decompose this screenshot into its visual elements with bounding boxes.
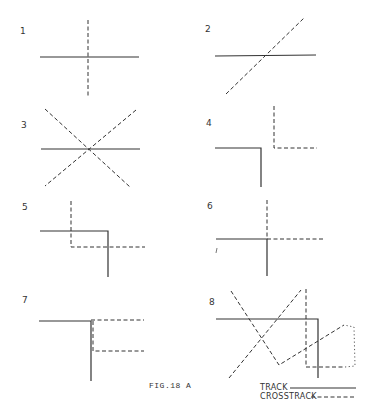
crosstrack-dotted-line: [344, 325, 355, 367]
crosstrack-line: [274, 106, 317, 148]
crosstrack-line: [231, 291, 344, 365]
panel-5: [40, 201, 145, 277]
panel-label-7: 7: [22, 295, 28, 305]
panel-1: [40, 20, 139, 96]
crosstrack-line: [45, 109, 130, 187]
crosstrack-line: [229, 290, 301, 378]
panel-2: [215, 18, 316, 94]
crosstrack-line: [267, 200, 324, 239]
stray-mark: [216, 248, 217, 253]
panel-6: [216, 200, 324, 276]
figure-caption: FIG.18 A: [149, 381, 191, 390]
panel-label-3: 3: [21, 120, 27, 130]
track-line: [216, 319, 318, 378]
crosstrack-line: [45, 110, 136, 186]
legend-label-crosstrack: CROSSTRACK: [260, 392, 317, 401]
figure-canvas: [0, 0, 376, 420]
track-line: [216, 239, 267, 276]
panel-4: [215, 106, 317, 187]
track-line: [39, 321, 91, 381]
panel-label-4: 4: [206, 118, 212, 128]
track-line: [215, 148, 261, 187]
panel-label-1: 1: [20, 26, 26, 36]
legend-label-track: TRACK: [260, 383, 288, 392]
panel-3: [41, 109, 140, 187]
panel-label-5: 5: [22, 202, 28, 212]
panel-label-8: 8: [209, 297, 215, 307]
panel-8: [216, 289, 355, 378]
panel-label-2: 2: [205, 24, 211, 34]
panel-7: [39, 320, 144, 381]
crosstrack-line: [93, 321, 144, 351]
track-line: [40, 231, 108, 277]
panel-label-6: 6: [207, 201, 213, 211]
